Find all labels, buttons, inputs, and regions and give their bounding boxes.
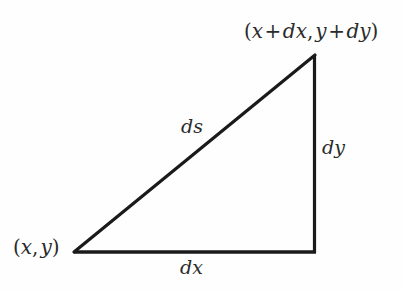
edge-label-dy: dy [322, 138, 345, 157]
symbol-y: y [40, 235, 51, 259]
operator-plus: + [263, 19, 283, 43]
paren-close: ) [371, 19, 379, 43]
edge-ds-line [74, 55, 315, 252]
symbol-dx: dx [283, 19, 307, 43]
edge-label-ds: ds [181, 117, 203, 136]
paren-open: ( [244, 19, 252, 43]
vertex-label-bottom-left: (x,y) [13, 237, 60, 257]
vertex-label-top-right: (x+dx,y+dy) [244, 21, 378, 41]
symbol-y: y [315, 19, 326, 43]
symbol-x: x [252, 19, 263, 43]
differential-triangle-figure: (x+dx,y+dy) (x,y) ds dy dx [0, 0, 405, 290]
symbol-dy: dy [346, 19, 370, 43]
paren-close: ) [52, 235, 60, 259]
paren-open: ( [13, 235, 21, 259]
edge-label-dx: dx [180, 258, 203, 277]
operator-plus-2: + [327, 19, 347, 43]
symbol-x: x [21, 235, 32, 259]
